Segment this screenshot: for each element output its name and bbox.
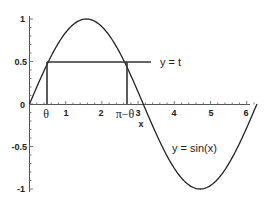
pi-minus-theta-label: π−θ [116, 107, 135, 121]
xtick-label-5: 5 [208, 108, 213, 118]
ytick-label-neg1: -1 [17, 184, 25, 194]
ytick-label-neg0.5: -0.5 [11, 142, 27, 152]
x-axis-minor-ticks [37, 101, 254, 105]
y-eq-t-label: y = t [160, 56, 181, 68]
xtick-label-3: 3 [135, 108, 140, 118]
xtick-label-1: 1 [63, 108, 68, 118]
sine-chart: 1 0.5 0 -0.5 -1 1 2 3 4 5 6 θ π−θ x y = … [0, 0, 271, 204]
ytick-label-0.5: 0.5 [14, 57, 27, 67]
x-axis-label: x [138, 119, 143, 129]
xtick-label-6: 6 [243, 108, 248, 118]
xtick-label-2: 2 [98, 108, 103, 118]
ytick-label-1: 1 [20, 14, 25, 24]
ytick-label-0: 0 [20, 100, 25, 110]
theta-label: θ [43, 107, 49, 121]
y-eq-sin-label: y = sin(x) [172, 142, 217, 154]
xtick-label-4: 4 [171, 108, 176, 118]
